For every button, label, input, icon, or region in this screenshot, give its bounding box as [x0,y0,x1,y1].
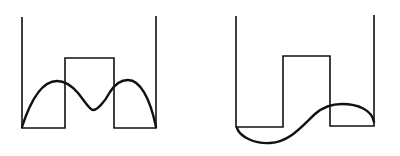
panel-right [236,15,374,143]
potential-well-right [236,15,374,127]
double-well-diagram [0,0,400,156]
wavefunction-left [22,80,156,127]
wavefunction-right [237,104,374,143]
potential-well-left [22,16,156,128]
panel-left [22,16,156,128]
